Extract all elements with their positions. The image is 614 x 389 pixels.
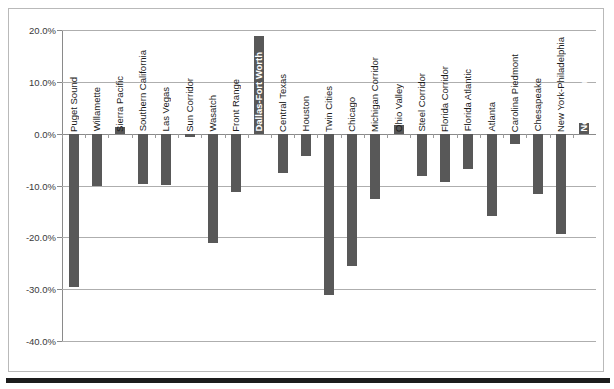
x-minor-tick: [271, 134, 272, 138]
bar: [231, 134, 241, 193]
category-label: New England: [579, 72, 589, 132]
category-label: Front Range: [231, 79, 241, 132]
x-minor-tick: [317, 134, 318, 138]
y-axis-tick-label: -40.0%: [2, 336, 56, 347]
category-label: Dallas-Fort Worth: [254, 52, 264, 132]
category-label: Southern California: [138, 50, 148, 131]
bottom-rule: [6, 378, 610, 383]
bar: [463, 134, 473, 170]
y-axis-tick-label: -30.0%: [2, 284, 56, 295]
category-label: Florida Atlantic: [463, 69, 473, 131]
y-tick-mark: [57, 186, 62, 187]
bar: [533, 134, 543, 195]
bar: [138, 134, 148, 185]
x-minor-tick: [433, 134, 434, 138]
category-label: Sierra Pacific: [115, 76, 125, 132]
category-label: Central Texas: [278, 74, 288, 132]
x-minor-tick: [62, 134, 63, 138]
x-minor-tick: [573, 134, 574, 138]
category-label: Michigan Corridor: [370, 57, 380, 132]
bar: [487, 134, 497, 216]
y-tick-mark: [57, 30, 62, 31]
x-minor-tick: [480, 134, 481, 138]
x-minor-tick: [457, 134, 458, 138]
x-minor-tick: [225, 134, 226, 138]
bar: [69, 134, 79, 287]
category-label: Florida Corridor: [440, 66, 450, 132]
category-label: Las Vegas: [161, 87, 171, 131]
y-axis-tick-label: 10.0%: [2, 76, 56, 87]
bar: [347, 134, 357, 266]
x-minor-tick: [550, 134, 551, 138]
x-minor-tick: [155, 134, 156, 138]
plot-area: Puget SoundWillametteSierra PacificSouth…: [62, 30, 596, 341]
bar: [161, 134, 171, 185]
y-axis-tick-label: 0.0%: [2, 128, 56, 139]
gridline-20.0: [62, 30, 596, 31]
x-minor-tick: [387, 134, 388, 138]
x-minor-tick: [108, 134, 109, 138]
category-label: Twin Cities: [324, 86, 334, 132]
y-tick-mark: [57, 237, 62, 238]
x-minor-tick: [341, 134, 342, 138]
bar: [370, 134, 380, 200]
category-label: Chesapeake: [533, 78, 543, 131]
bar: [278, 134, 288, 173]
x-minor-tick: [248, 134, 249, 138]
bar: [92, 134, 102, 186]
category-label: Atlanta: [487, 102, 497, 132]
bar: [417, 134, 427, 176]
bar: [440, 134, 450, 183]
x-minor-tick: [294, 134, 295, 138]
y-axis-tick-label: -20.0%: [2, 232, 56, 243]
y-tick-mark: [57, 341, 62, 342]
y-axis-tick-label: -10.0%: [2, 180, 56, 191]
category-label: Wasatch: [208, 95, 218, 132]
gridline--40.0: [62, 341, 596, 342]
chart-figure: Puget SoundWillametteSierra PacificSouth…: [0, 0, 614, 389]
category-label: New York-Philadelphia: [556, 37, 566, 132]
y-tick-mark: [57, 289, 62, 290]
x-minor-tick: [85, 134, 86, 138]
x-minor-tick: [526, 134, 527, 138]
category-label: Houston: [301, 96, 311, 131]
x-minor-tick: [364, 134, 365, 138]
x-minor-tick: [201, 134, 202, 138]
y-axis-tick-label: 20.0%: [2, 25, 56, 36]
category-label: Chicago: [347, 97, 357, 132]
x-minor-tick: [503, 134, 504, 138]
x-minor-tick: [132, 134, 133, 138]
bar: [208, 134, 218, 243]
x-minor-tick: [178, 134, 179, 138]
y-tick-mark: [57, 82, 62, 83]
category-label: Puget Sound: [69, 77, 79, 132]
bar: [556, 134, 566, 235]
category-label: Carolina Piedmont: [510, 54, 520, 132]
category-label: Willamette: [92, 87, 102, 131]
category-label: Sun Corridor: [185, 78, 195, 132]
category-label: Steel Corridor: [417, 73, 427, 132]
x-minor-tick: [410, 134, 411, 138]
category-label: Ohio Valley: [394, 84, 404, 132]
bar: [324, 134, 334, 296]
bar: [301, 134, 311, 157]
bar: [510, 134, 520, 144]
bar: [185, 134, 195, 138]
